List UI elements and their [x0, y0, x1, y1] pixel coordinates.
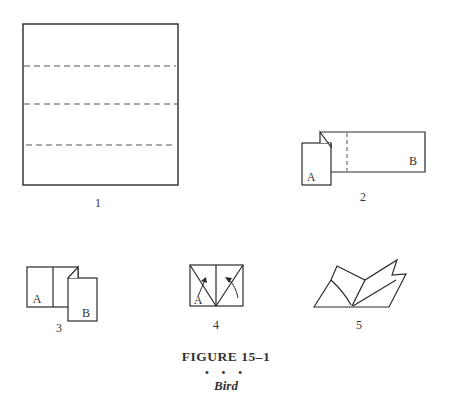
step-2-strip [302, 132, 425, 185]
figure-subtitle: Bird [214, 378, 238, 394]
step-4-label-a: A [194, 294, 203, 306]
step-number-3: 3 [56, 322, 62, 334]
figure-title: FIGURE 15–1 [182, 349, 270, 365]
step-2-label-b: B [409, 155, 417, 167]
step-number-5: 5 [356, 319, 362, 331]
origami-diagram [0, 0, 452, 404]
step-3-label-a: A [33, 293, 42, 305]
step-3-label-b: B [82, 307, 90, 319]
step-number-4: 4 [213, 319, 219, 331]
step-number-2: 2 [360, 191, 366, 203]
step-number-1: 1 [95, 197, 101, 209]
step-5-bird [314, 260, 407, 307]
figure-separator: • • • [205, 366, 247, 378]
step-1-square [23, 24, 178, 185]
step-2-label-a: A [307, 171, 316, 183]
